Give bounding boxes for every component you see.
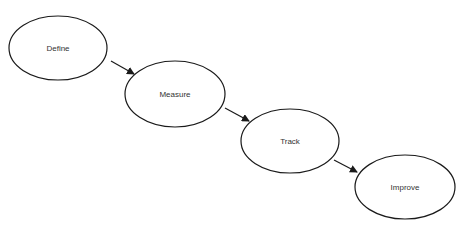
diagram-svg: Define Measure Track Improve	[0, 0, 469, 234]
node-label-measure: Measure	[159, 90, 191, 99]
node-label-track: Track	[280, 137, 301, 146]
node-improve: Improve	[355, 155, 455, 219]
edge-measure-track	[225, 108, 249, 121]
node-measure: Measure	[125, 61, 225, 127]
node-label-improve: Improve	[391, 183, 420, 192]
edge-track-improve	[334, 160, 357, 172]
node-define: Define	[9, 16, 107, 80]
edge-define-measure	[111, 61, 134, 74]
flow-diagram: Define Measure Track Improve	[0, 0, 469, 234]
node-track: Track	[241, 109, 339, 173]
node-label-define: Define	[46, 44, 70, 53]
